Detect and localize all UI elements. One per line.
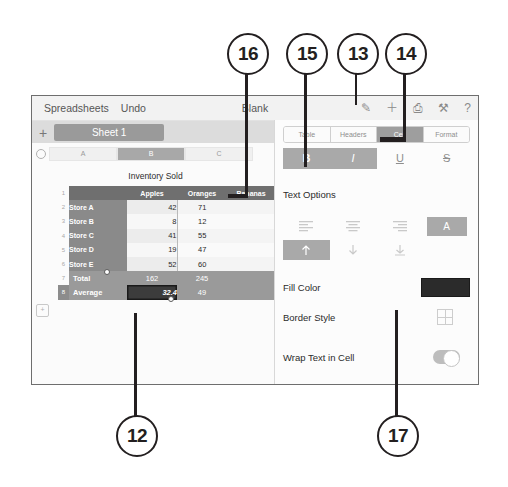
column-header-b[interactable]: B xyxy=(117,147,185,161)
format-brush-icon[interactable]: ✎ xyxy=(361,102,371,114)
cell-store-a-bananas[interactable] xyxy=(227,200,275,214)
text-format-a-button[interactable]: A xyxy=(423,215,470,237)
row-number-2[interactable]: 2 xyxy=(58,200,69,214)
selection-handle-top-left[interactable] xyxy=(104,269,110,275)
inspector-tab-bar: Table Headers Cell Format xyxy=(283,126,470,143)
help-question-icon[interactable]: ? xyxy=(464,102,471,114)
header-apples[interactable]: Apples xyxy=(127,186,177,200)
text-style-button-row: B I U S xyxy=(283,148,470,169)
cell-store-a-apples[interactable]: 42 xyxy=(127,200,177,214)
cell-average-bananas[interactable] xyxy=(227,285,275,299)
add-row-button[interactable]: + xyxy=(36,304,49,317)
wrap-text-label: Wrap Text in Cell xyxy=(283,352,433,363)
row-number-8[interactable]: 8 xyxy=(58,285,69,299)
align-top-icon xyxy=(300,244,312,256)
cell-average-oranges[interactable]: 49 xyxy=(177,285,227,299)
select-all-icon[interactable] xyxy=(36,149,46,159)
strikethrough-button[interactable]: S xyxy=(423,148,470,169)
border-style-row[interactable]: Border Style xyxy=(283,302,470,332)
border-style-label: Border Style xyxy=(283,312,437,323)
cell-store-e-label[interactable]: Store E xyxy=(69,257,127,271)
leader-line-16 xyxy=(245,71,248,196)
callout-15: 15 xyxy=(286,33,328,75)
align-left-icon xyxy=(299,221,313,232)
share-document-icon[interactable]: ⎙ xyxy=(413,102,423,114)
spreadsheets-back-button[interactable]: Spreadsheets xyxy=(44,102,109,114)
row-number-1[interactable]: 1 xyxy=(58,186,69,200)
header-oranges[interactable]: Oranges xyxy=(177,186,227,200)
align-center-button[interactable] xyxy=(330,215,377,237)
vertical-align-row xyxy=(283,240,470,260)
cell-total-bananas[interactable] xyxy=(227,271,275,285)
cell-store-b-oranges[interactable]: 12 xyxy=(177,214,227,228)
leader-line-17 xyxy=(395,310,398,417)
cell-store-e-apples[interactable]: 52 xyxy=(127,257,177,271)
cell-store-e-oranges[interactable]: 60 xyxy=(177,257,227,271)
selection-handle-bottom-right[interactable] xyxy=(168,296,174,302)
align-bottom-button[interactable] xyxy=(377,239,424,261)
row-number-3[interactable]: 3 xyxy=(58,214,69,228)
sheet-tab-sheet1[interactable]: Sheet 1 xyxy=(54,124,164,141)
align-center-icon xyxy=(346,221,360,232)
tools-wrench-icon[interactable]: ⚒ xyxy=(438,102,449,114)
italic-button[interactable]: I xyxy=(330,148,377,169)
cell-store-b-apples[interactable]: 8 xyxy=(127,214,177,228)
cell-store-c-apples[interactable]: 41 xyxy=(127,229,177,243)
cell-store-c-bananas[interactable] xyxy=(227,229,275,243)
cell-store-c-label[interactable]: Store C xyxy=(69,229,127,243)
underline-button[interactable]: U xyxy=(377,148,424,169)
leader-line-12 xyxy=(134,313,137,417)
cell-store-a-oranges[interactable]: 71 xyxy=(177,200,227,214)
fill-color-label: Fill Color xyxy=(283,282,421,293)
align-middle-button[interactable] xyxy=(330,239,377,261)
add-sheet-button[interactable]: + xyxy=(39,126,47,140)
align-top-button[interactable] xyxy=(283,240,330,260)
cell-store-d-label[interactable]: Store D xyxy=(69,243,127,257)
cell-store-c-oranges[interactable]: 55 xyxy=(177,229,227,243)
row-number-5[interactable]: 5 xyxy=(58,243,69,257)
row-number-6[interactable]: 6 xyxy=(58,257,69,271)
fill-color-row[interactable]: Fill Color xyxy=(283,272,470,302)
horizontal-align-row: A xyxy=(283,215,470,237)
cell-total-apples[interactable]: 162 xyxy=(127,271,177,285)
align-right-icon xyxy=(393,221,407,232)
tab-format[interactable]: Format xyxy=(424,127,470,142)
data-table: 1 Apples Oranges Bananas 2 Store A 42 71… xyxy=(58,186,275,300)
align-left-button[interactable] xyxy=(283,215,330,237)
corner-cell[interactable] xyxy=(69,186,127,200)
insert-plus-icon[interactable]: ＋ xyxy=(386,102,398,114)
row-number-7[interactable]: 7 xyxy=(58,271,69,285)
callout-17: 17 xyxy=(377,415,419,457)
table-row: 4 Store C 41 55 xyxy=(58,229,275,243)
fill-color-swatch[interactable] xyxy=(421,278,470,297)
toggle-knob xyxy=(443,350,460,367)
column-header-a[interactable]: A xyxy=(49,147,117,161)
callout-12: 12 xyxy=(116,415,158,457)
wrap-text-toggle[interactable] xyxy=(433,350,460,364)
cell-total-label[interactable]: Total xyxy=(69,271,127,285)
cell-store-d-oranges[interactable]: 47 xyxy=(177,243,227,257)
border-grid-icon[interactable] xyxy=(437,309,453,325)
text-options-row[interactable]: Text Options xyxy=(283,179,470,209)
tab-table[interactable]: Table xyxy=(284,127,331,142)
cell-store-d-bananas[interactable] xyxy=(227,243,275,257)
column-header-c[interactable]: C xyxy=(185,147,253,161)
align-right-button[interactable] xyxy=(377,215,424,237)
undo-button[interactable]: Undo xyxy=(121,102,146,114)
tab-headers[interactable]: Headers xyxy=(331,127,378,142)
callout-16: 16 xyxy=(227,33,269,75)
row-number-4[interactable]: 4 xyxy=(58,229,69,243)
text-options-label: Text Options xyxy=(283,189,470,200)
cell-total-oranges[interactable]: 245 xyxy=(177,271,227,285)
spreadsheet-canvas: A B C Inventory Sold 1 Apples Oranges Ba… xyxy=(32,143,275,384)
table-row: 3 Store B 8 12 xyxy=(58,214,275,228)
cell-store-a-label[interactable]: Store A xyxy=(69,200,127,214)
cell-store-d-apples[interactable]: 19 xyxy=(127,243,177,257)
cell-store-b-bananas[interactable] xyxy=(227,214,275,228)
cell-store-e-bananas[interactable] xyxy=(227,257,275,271)
wrap-text-row[interactable]: Wrap Text in Cell xyxy=(283,342,470,372)
cell-average-label[interactable]: Average xyxy=(69,285,127,299)
table-title[interactable]: Inventory Sold xyxy=(58,171,253,181)
cell-store-b-label[interactable]: Store B xyxy=(69,214,127,228)
leader-line-15 xyxy=(304,71,307,167)
